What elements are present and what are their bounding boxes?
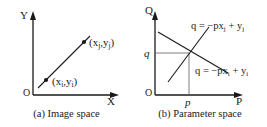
panel-parameter-space: Q P O q p q = −pxj + yj q = −pxi + yi (b… [133,0,267,127]
point-j-sub-y: j [109,41,111,50]
equation-j-sub-y: j [242,25,244,33]
q-tick-label: q [144,48,150,59]
point-i-text-mid: ,y [63,75,71,87]
point-j-label: (xj,yj) [89,37,114,48]
point-j-text-mid: ,y [100,36,108,48]
point-i-sub-y: i [72,80,74,89]
q-axis-label: Q [145,5,153,16]
equation-i-sub-x: i [228,70,230,78]
equation-i-mid: + y [230,65,246,76]
equation-j-label: q = −pxj + yj [191,21,244,32]
equation-i-sub-y: i [246,70,248,78]
y-axis-label: Y [20,10,28,21]
point-j-text-lead: (x [89,36,98,48]
equation-i-lead: q = −px [195,65,228,76]
figure-container: Y X O (xi,yi) (xj,yj) (a) Image space [0,0,267,127]
equation-j-sub-x: j [224,25,226,33]
panel-image-space: Y X O (xi,yi) (xj,yj) (a) Image space [0,0,133,127]
y-axis [30,11,36,95]
point-j-text-end: ) [111,36,115,48]
equation-j-lead: q = −px [191,20,224,31]
point-i-sub-x: i [61,80,63,89]
point-j-sub-x: j [98,41,100,50]
origin-label-b: O [145,88,152,98]
origin-label-a: O [23,88,30,98]
p-axis [155,92,243,98]
point-j-marker [82,40,86,44]
equation-j-mid: + y [226,20,242,31]
equation-i-label: q = −pxi + yi [195,66,248,77]
caption-b: (b) Parameter space [133,108,267,119]
point-i-text-end: ) [74,75,78,87]
x-axis-label: X [107,96,115,107]
point-i-label: (xi,yi) [52,76,77,87]
point-i-text-lead: (x [52,75,61,87]
point-i-marker [44,78,48,82]
p-axis-label: P [236,96,242,107]
p-tick-label: p [185,97,191,108]
caption-a: (a) Image space [0,108,133,119]
